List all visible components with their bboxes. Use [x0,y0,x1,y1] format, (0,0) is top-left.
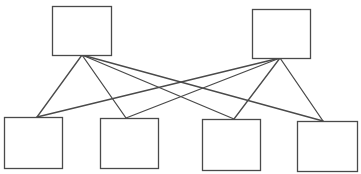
node-box-bottom-3 [203,120,261,171]
node-box-bottom-2 [101,119,159,169]
bipartite-diagram [0,0,361,174]
node-box-top-right [253,10,311,59]
node-box-bottom-4 [298,122,358,172]
node-box-top-left [53,7,112,56]
diagram-canvas [0,0,361,174]
node-box-bottom-1 [5,118,63,169]
edges-layer [37,55,323,121]
